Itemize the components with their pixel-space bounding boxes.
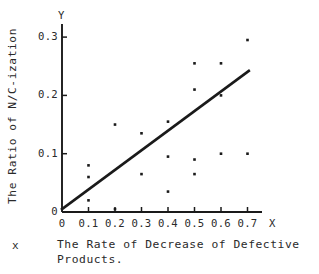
data-point bbox=[193, 88, 196, 91]
caption-line-2: Products. bbox=[57, 252, 313, 267]
data-point bbox=[167, 190, 170, 193]
x-tick-label: 0.2 bbox=[101, 217, 129, 229]
x-tick-label: 0.3 bbox=[128, 217, 156, 229]
data-point bbox=[193, 173, 196, 176]
data-point bbox=[220, 94, 223, 97]
data-point bbox=[167, 120, 170, 123]
data-point bbox=[193, 158, 196, 161]
tick-marks-group bbox=[62, 37, 248, 212]
x-tick-label: 0.7 bbox=[234, 217, 262, 229]
data-point bbox=[246, 152, 249, 155]
x-tick-label: 0.5 bbox=[181, 217, 209, 229]
scatter-plot-figure: The Ratio of N/C-ization 00.10.20.3 00.1… bbox=[0, 0, 319, 274]
data-point bbox=[220, 152, 223, 155]
data-point bbox=[140, 132, 143, 135]
caption-axis-marker: x bbox=[12, 239, 19, 252]
data-point bbox=[193, 62, 196, 65]
x-axis-letter: X bbox=[269, 217, 275, 229]
x-tick-label: 0.1 bbox=[75, 217, 103, 229]
data-point bbox=[220, 62, 223, 65]
x-tick-label: 0 bbox=[48, 217, 76, 229]
y-tick-label: 0 bbox=[51, 205, 58, 217]
data-point bbox=[246, 39, 249, 42]
x-tick-label: 0.4 bbox=[154, 217, 182, 229]
axes-group bbox=[62, 24, 262, 212]
caption-line-1: The Rate of Decrease of Defective bbox=[57, 237, 313, 252]
data-point bbox=[87, 199, 90, 202]
x-axis-caption: The Rate of Decrease of Defective Produc… bbox=[57, 237, 313, 267]
trendline-group bbox=[62, 71, 249, 209]
y-tick-label: 0.3 bbox=[38, 30, 58, 42]
regression-trendline bbox=[62, 71, 249, 209]
y-tick-label: 0.2 bbox=[38, 88, 58, 100]
data-point bbox=[140, 173, 143, 176]
data-point bbox=[87, 176, 90, 179]
data-point bbox=[167, 155, 170, 158]
x-tick-label: 0.6 bbox=[207, 217, 235, 229]
plot-area: 00.10.20.3 00.10.20.30.40.50.60.7 Y X bbox=[0, 0, 290, 228]
y-axis-letter: Y bbox=[58, 9, 64, 21]
data-point bbox=[87, 164, 90, 167]
data-point bbox=[114, 208, 117, 211]
y-tick-label: 0.1 bbox=[38, 147, 58, 159]
data-points-group bbox=[87, 39, 249, 211]
data-point bbox=[114, 123, 117, 126]
